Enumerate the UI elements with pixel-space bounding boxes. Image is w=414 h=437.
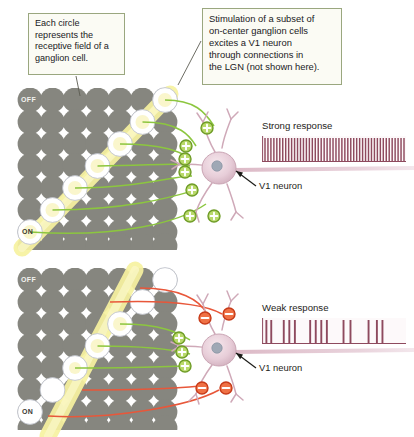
callout-line: Each circle [35, 18, 119, 30]
nucleus [212, 343, 222, 353]
v1-neuron-label-top: V1 neuron [259, 180, 302, 191]
weak-response-label: Weak response [262, 302, 328, 313]
callout-line: represents the [35, 30, 119, 42]
strong-response-spike-train [262, 136, 406, 162]
weak-response-spike-train [262, 318, 406, 344]
callout-line: ganglion cell. [35, 53, 119, 65]
v1-neuron-pointer [236, 353, 256, 368]
strong-response-label: Strong response [262, 120, 332, 131]
v1-neuron-pointer [236, 171, 256, 186]
strong-response-panel: OFF ON Strong response V1 neuron Each ci… [0, 0, 414, 258]
weak-response-diagram [0, 258, 414, 437]
off-region-label: OFF [21, 96, 36, 103]
callout-line: receptive field of a [35, 41, 119, 53]
stimulation-callout: Stimulation of a subset of on-center gan… [202, 8, 342, 85]
callout-line: on-center ganglion cells [209, 25, 336, 37]
v1-neuron-label-bottom: V1 neuron [259, 362, 302, 373]
callout-line: Stimulation of a subset of [209, 13, 336, 25]
receptive-field-callout: Each circle represents the receptive fie… [28, 13, 125, 75]
callout-line: through connections in [209, 49, 336, 61]
on-region-label-bottom: ON [22, 408, 33, 415]
callout-line: the LGN (not shown here). [209, 61, 336, 73]
callout-line: excites a V1 neuron [209, 37, 336, 49]
on-region-label: ON [22, 228, 33, 235]
nucleus [212, 161, 222, 171]
on-center-cell [40, 378, 65, 403]
weak-response-panel: OFF ON Weak response V1 neuron [0, 258, 414, 437]
grid-row [18, 132, 178, 157]
off-region-label-bottom: OFF [21, 276, 36, 283]
